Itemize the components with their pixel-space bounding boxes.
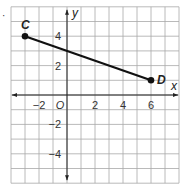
x-axis-arrow-right-icon	[173, 93, 178, 97]
y-tick-label: 2	[55, 60, 61, 72]
x-axis-arrow-left-icon	[12, 93, 17, 97]
point-c	[22, 33, 29, 40]
x-tick-label: 6	[148, 99, 154, 111]
y-tick-label: −2	[48, 118, 61, 130]
y-axis-arrow-down-icon	[65, 175, 69, 180]
y-tick-label: −4	[48, 148, 61, 160]
y-axis-label: y	[71, 6, 79, 20]
y-tick-label: 4	[55, 30, 61, 42]
x-tick-label: −2	[33, 99, 46, 111]
coordinate-plane: xy−2O24642−2−4CD	[0, 0, 185, 194]
segment-cd	[25, 36, 151, 80]
x-tick-label: O	[56, 99, 65, 111]
x-tick-label: 2	[92, 99, 98, 111]
y-axis-arrow-up-icon	[65, 10, 69, 15]
point-d	[148, 77, 155, 84]
point-label-d: D	[157, 73, 166, 87]
x-axis-label: x	[170, 79, 178, 93]
x-tick-label: 4	[120, 99, 126, 111]
point-label-c: C	[21, 18, 30, 32]
